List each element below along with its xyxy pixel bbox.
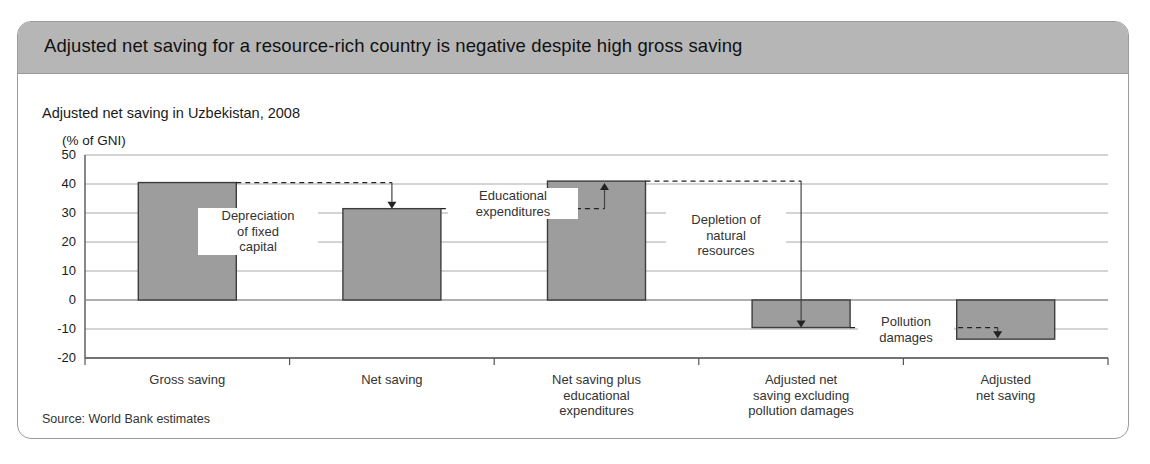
y-axis-tick-label: 30	[36, 205, 76, 220]
arrowhead-down-icon	[993, 331, 1002, 338]
y-axis-unit-label: (% of GNI)	[62, 133, 126, 148]
chart-annotation-label: Educational expenditures	[448, 188, 578, 219]
bar	[957, 300, 1055, 339]
arrowhead-up-icon	[600, 183, 609, 190]
chart-annotation-label: Depreciation of fixed capital	[198, 208, 318, 255]
chart-card: Adjusted net saving for a resource-rich …	[17, 21, 1129, 439]
y-axis-tick-label: 40	[36, 176, 76, 191]
chart-subtitle: Adjusted net saving in Uzbekistan, 2008	[42, 105, 300, 121]
arrowhead-down-icon	[387, 202, 396, 209]
screenshot-root: Adjusted net saving for a resource-rich …	[0, 0, 1150, 464]
y-axis-tick-label: 10	[36, 263, 76, 278]
x-axis-category-label: Adjusted net saving	[883, 372, 1128, 403]
chart-annotation-label: Depletion of natural resources	[666, 212, 786, 259]
y-axis-tick-label: 20	[36, 234, 76, 249]
y-axis-tick-label: 50	[36, 147, 76, 162]
bar	[343, 209, 441, 300]
card-header-title: Adjusted net saving for a resource-rich …	[44, 35, 743, 57]
source-note: Source: World Bank estimates	[42, 412, 210, 426]
y-axis-tick-label: -20	[36, 350, 76, 365]
axis-ticks	[85, 358, 1108, 365]
arrowhead-down-icon	[797, 321, 806, 328]
chart-annotation-label: Pollution damages	[858, 314, 954, 345]
gridlines	[85, 155, 1108, 358]
y-axis-tick-label: 0	[36, 292, 76, 307]
bar	[752, 300, 850, 328]
axis-lines	[85, 155, 1108, 358]
y-axis-tick-label: -10	[36, 321, 76, 336]
